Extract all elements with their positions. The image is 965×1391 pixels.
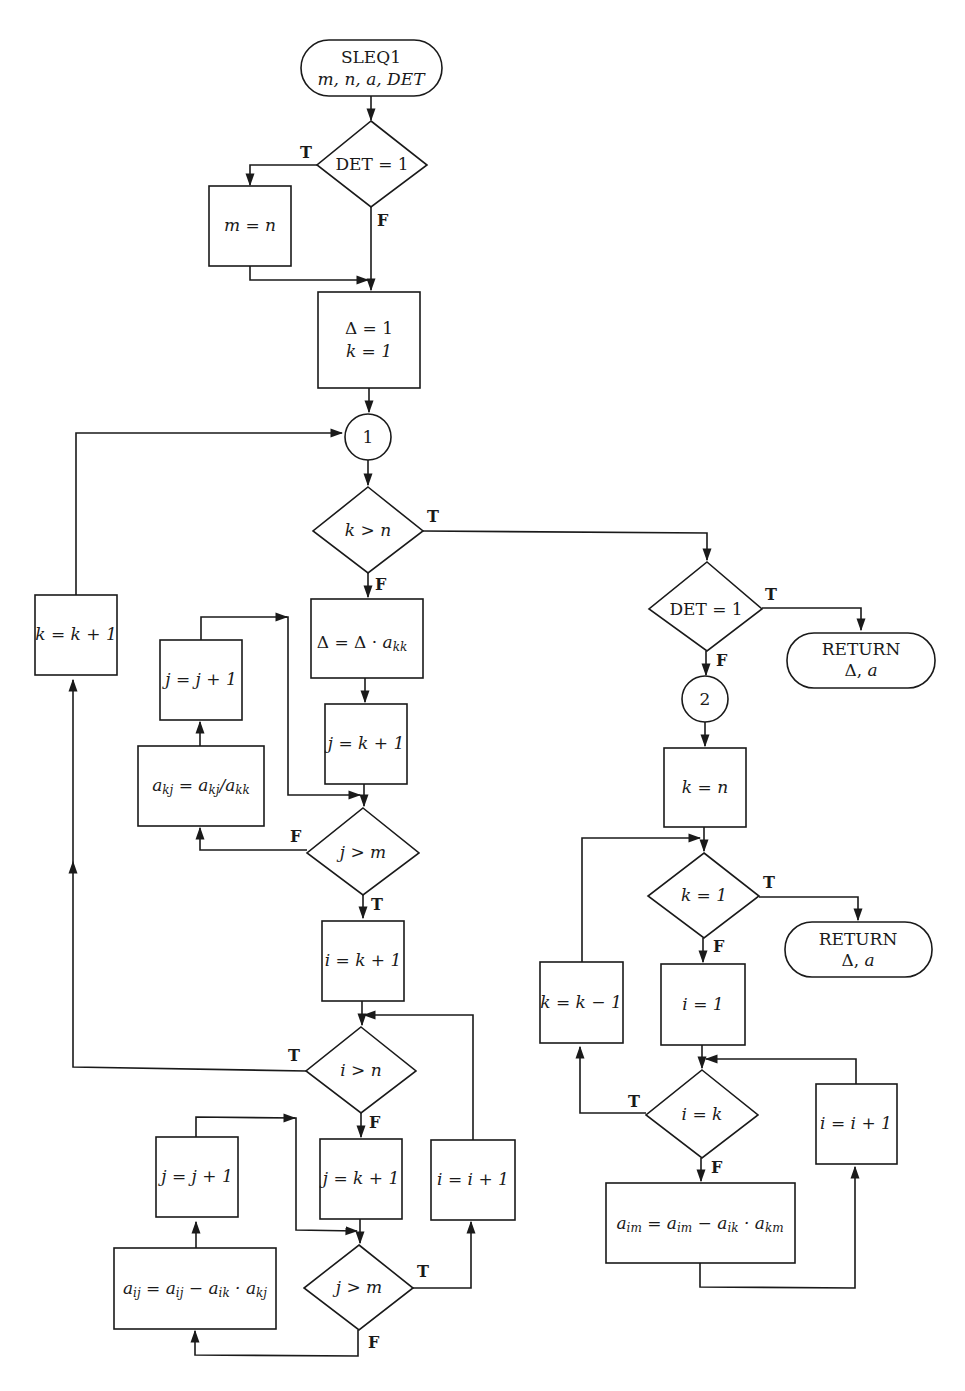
svg-text:Δ = 1: Δ = 1 <box>345 318 393 338</box>
svg-text:Δ, a: Δ, a <box>844 660 877 680</box>
svg-text:k = 1: k = 1 <box>681 885 727 905</box>
process-i-eq-1: i = 1 <box>661 964 745 1045</box>
start-terminal: SLEQ1 m, n, a, DET <box>301 40 442 96</box>
svg-text:i = i + 1: i = i + 1 <box>437 1169 509 1189</box>
svg-text:1: 1 <box>363 427 374 447</box>
connector-2: 2 <box>682 676 728 722</box>
branch-label-false: F <box>377 211 389 230</box>
svg-text:k = n: k = n <box>682 777 728 797</box>
svg-text:aim = aim − aik · akm: aim = aim − aik · akm <box>616 1213 783 1235</box>
svg-text:Δ, a: Δ, a <box>841 950 874 970</box>
svg-text:T: T <box>288 1046 300 1065</box>
process-aij-update: aij = aij − aik · akj <box>114 1248 276 1329</box>
svg-text:i = k + 1: i = k + 1 <box>325 950 402 970</box>
svg-text:DET = 1: DET = 1 <box>669 599 742 619</box>
svg-text:T: T <box>417 1262 429 1281</box>
svg-text:k > n: k > n <box>345 520 391 540</box>
decision-k-gt-n: k > n <box>313 487 423 573</box>
svg-text:j = j + 1: j = j + 1 <box>161 669 236 689</box>
process-i-inc-2: i = i + 1 <box>816 1084 897 1164</box>
svg-text:F: F <box>290 827 302 846</box>
decision-i-eq-k: i = k <box>646 1070 758 1158</box>
svg-text:T: T <box>427 507 439 526</box>
svg-text:F: F <box>716 651 728 670</box>
svg-text:2: 2 <box>700 689 711 709</box>
svg-text:T: T <box>628 1092 640 1111</box>
svg-text:i = k: i = k <box>682 1104 723 1124</box>
process-j-inc-2: j = j + 1 <box>156 1137 238 1217</box>
svg-text:m = n: m = n <box>224 215 276 235</box>
svg-text:F: F <box>711 1158 723 1177</box>
decision-i-gt-n: i > n <box>306 1027 416 1113</box>
process-j-inc-1: j = j + 1 <box>160 640 242 720</box>
process-akj-div: akj = akj/akk <box>138 746 264 826</box>
process-j-init-2: j = k + 1 <box>319 1139 402 1219</box>
process-i-init: i = k + 1 <box>322 921 404 1001</box>
process-m-eq-n: m = n <box>209 186 291 266</box>
process-k-dec: k = k − 1 <box>540 962 623 1043</box>
process-j-init-1: j = k + 1 <box>324 704 407 784</box>
decision-k-eq-1: k = 1 <box>648 853 759 938</box>
decision-j-gt-m-2: j > m <box>304 1245 413 1330</box>
decision-det-1: DET = 1 <box>317 121 427 207</box>
svg-text:k = k − 1: k = k − 1 <box>540 992 622 1012</box>
svg-text:i > n: i > n <box>340 1060 381 1080</box>
return-terminal-2: RETURN Δ, a <box>785 922 932 977</box>
process-init: Δ = 1 k = 1 <box>318 292 420 388</box>
svg-text:k = 1: k = 1 <box>346 341 392 361</box>
process-k-eq-n: k = n <box>664 748 746 827</box>
svg-text:RETURN: RETURN <box>822 639 901 659</box>
svg-text:j = k + 1: j = k + 1 <box>319 1168 400 1188</box>
process-i-inc-1: i = i + 1 <box>431 1140 515 1220</box>
svg-text:aij = aij − aik · akj: aij = aij − aik · akj <box>123 1278 267 1300</box>
svg-text:j > m: j > m <box>332 1277 382 1297</box>
process-delta-mul: Δ = Δ · akk <box>311 599 423 678</box>
branch-label-true: T <box>300 143 312 162</box>
svg-text:F: F <box>369 1113 381 1132</box>
start-title: SLEQ1 <box>341 47 401 67</box>
svg-text:i = 1: i = 1 <box>682 994 723 1014</box>
svg-text:T: T <box>763 873 775 892</box>
process-k-inc: k = k + 1 <box>35 595 117 675</box>
svg-text:j > m: j > m <box>336 842 386 862</box>
svg-text:j = j + 1: j = j + 1 <box>157 1166 232 1186</box>
return-terminal-1: RETURN Δ, a <box>787 633 935 688</box>
svg-text:RETURN: RETURN <box>819 929 898 949</box>
svg-text:F: F <box>368 1333 380 1352</box>
svg-text:F: F <box>375 575 387 594</box>
svg-text:DET = 1: DET = 1 <box>335 154 408 174</box>
svg-text:T: T <box>765 585 777 604</box>
svg-text:k = k + 1: k = k + 1 <box>35 624 117 644</box>
svg-text:j = k + 1: j = k + 1 <box>324 733 405 753</box>
svg-text:i = i + 1: i = i + 1 <box>820 1113 892 1133</box>
svg-text:T: T <box>371 895 383 914</box>
process-aim-update: aim = aim − aik · akm <box>606 1183 795 1263</box>
svg-text:F: F <box>713 937 725 956</box>
start-params: m, n, a, DET <box>317 69 426 89</box>
decision-det-2: DET = 1 <box>649 562 762 651</box>
connector-1: 1 <box>345 414 391 460</box>
decision-j-gt-m-1: j > m <box>307 808 419 895</box>
